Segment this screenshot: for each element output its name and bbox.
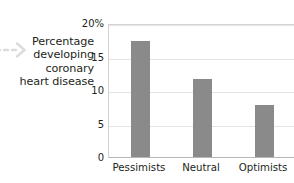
- y-axis-labels: 20%151050: [56, 24, 104, 158]
- y-tick-label-20: 20%: [58, 19, 104, 29]
- bar-pessimists: [131, 41, 150, 157]
- y-tick-label-0: 0: [58, 153, 104, 163]
- bar-neutral: [193, 79, 212, 157]
- bar-chart-figure: Percentage developing coronary heart dis…: [0, 0, 294, 183]
- x-tick-label-neutral: Neutral: [182, 162, 220, 174]
- bar-group: [109, 25, 294, 157]
- plot-area: [108, 24, 294, 158]
- y-tick-label-5: 5: [58, 120, 104, 130]
- x-axis-line: [109, 157, 294, 158]
- x-tick-label-pessimists: Pessimists: [113, 162, 166, 174]
- y-tick-label-15: 15: [58, 53, 104, 63]
- x-tick-label-optimists: Optimists: [239, 162, 288, 174]
- x-axis-labels: PessimistsNeutralOptimists: [108, 162, 294, 178]
- bar-optimists: [255, 105, 274, 157]
- y-tick-label-10: 10: [58, 86, 104, 96]
